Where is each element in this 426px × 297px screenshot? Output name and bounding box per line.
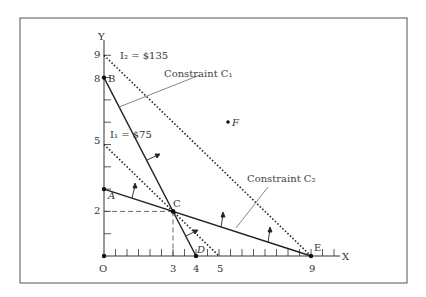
frame-border: [20, 18, 407, 283]
point-b: [102, 75, 106, 79]
constraint-c2-leader: [236, 187, 268, 228]
point-e: [309, 254, 313, 258]
constraint-c2-line: [104, 189, 311, 256]
point-b-label: B: [108, 73, 115, 84]
x-axis-label: X: [342, 251, 350, 262]
point-e-label: E: [314, 242, 321, 253]
diagram-canvas: Y X O 3 4 5 9 2 5 8 9: [0, 0, 426, 297]
constraint-c1-leader: [119, 75, 200, 107]
point-c-label: C: [173, 198, 181, 209]
iso-line-i1-label: I₁ = $75: [110, 129, 152, 140]
y-tick-label-9: 9: [94, 49, 100, 60]
constraint-c1-line: [104, 78, 196, 256]
points: [102, 75, 313, 258]
x-tick-label-5: 5: [217, 263, 223, 274]
point-d-label: D: [196, 244, 205, 255]
c2-direction-arrows: [132, 183, 272, 242]
point-o: [102, 254, 106, 258]
origin-label: O: [99, 263, 107, 274]
iso-line-i2-label: I₂ = $135: [120, 50, 168, 61]
y-tick-label-2: 2: [94, 205, 100, 216]
point-f: [226, 120, 230, 124]
x-tick-label-3: 3: [170, 263, 176, 274]
c1-direction-arrows: [147, 154, 198, 236]
iso-line-i2: [104, 55, 311, 256]
y-tick-label-5: 5: [94, 135, 100, 146]
y-tick-label-8: 8: [94, 73, 100, 84]
x-tick-label-4: 4: [193, 263, 199, 274]
iso-line-i1: [104, 145, 219, 257]
x-tick-label-9: 9: [309, 263, 315, 274]
point-a: [102, 187, 106, 191]
y-axis-label: Y: [97, 31, 105, 42]
constraint-c2-label: Constraint C₂: [247, 173, 316, 184]
point-c: [171, 209, 176, 214]
point-a-label: A: [107, 190, 115, 201]
constraint-c1-label: Constraint C₁: [164, 68, 233, 79]
point-f-label: F: [231, 117, 240, 128]
